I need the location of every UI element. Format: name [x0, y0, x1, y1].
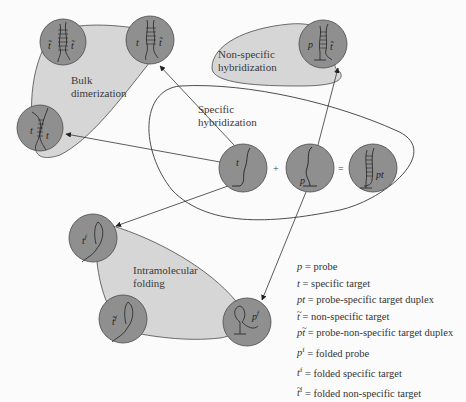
non-specific-hybridization-label-2: hybridization	[218, 61, 277, 73]
specific-hybridization-label: Specific	[198, 103, 234, 115]
legend-item-probe-specific-duplex: pt = probe-specific target duplex	[297, 292, 453, 309]
molecule-folded-probe: pf	[223, 298, 271, 346]
legend-item-folded-probe: pf = folded probe	[297, 342, 453, 362]
svg-text:t: t	[30, 125, 33, 136]
svg-text:t: t	[136, 37, 139, 48]
molecule-p-tnonspec-duplex: p t̃	[299, 20, 347, 68]
legend-item-probe-nonspecific-duplex: ~pt = probe-non-specific target duplex	[297, 325, 453, 342]
non-specific-hybridization-label: Non-specific	[218, 48, 275, 60]
svg-text:t: t	[236, 157, 239, 168]
svg-text:p: p	[299, 175, 305, 186]
intramolecular-folding-label-2: folding	[133, 277, 165, 289]
legend-item-probe: p = probe	[297, 259, 453, 276]
svg-text:t: t	[46, 130, 49, 141]
molecule-tnonspec-dimer: t̃ t̃	[40, 19, 86, 65]
molecule-t-tnonspec-dimer: t t̃	[126, 16, 174, 64]
plus-operator: +	[273, 163, 279, 174]
equals-operator: =	[338, 163, 344, 174]
svg-text:p: p	[307, 39, 313, 50]
molecule-folded-nonspecific-target: t̃f	[99, 295, 147, 343]
bulk-dimerization-label-2: dimerization	[71, 87, 127, 99]
arrow-t-to-tt	[66, 134, 220, 162]
molecule-t-dimer: t t	[17, 105, 63, 151]
molecule-folded-specific-target: tf	[69, 214, 117, 262]
molecule-specific-target: t	[219, 144, 267, 192]
specific-hybridization-label-2: hybridization	[198, 116, 257, 128]
bulk-dimerization-label: Bulk	[71, 74, 93, 86]
legend-item-nonspecific-target: ~t = non-specific target	[297, 309, 453, 326]
legend: p = probe t = specific target pt = probe…	[297, 259, 453, 402]
arrow-t-to-tf	[116, 186, 228, 226]
legend-item-folded-specific-target: tf = folded specific target	[297, 362, 453, 382]
intramolecular-folding-label: Intramolecular	[133, 264, 198, 276]
molecule-probe-target-duplex: pt	[349, 144, 397, 192]
svg-text:pt: pt	[375, 169, 384, 180]
legend-item-specific-target: t = specific target	[297, 276, 453, 293]
molecule-probe: p	[286, 144, 334, 192]
legend-item-folded-nonspecific-target: ~tf = folded non-specific target	[297, 382, 453, 402]
